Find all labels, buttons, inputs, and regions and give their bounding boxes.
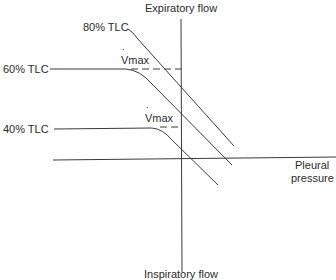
curve-60-tlc xyxy=(50,69,232,165)
flow-axis xyxy=(181,19,182,272)
pleural-pressure-axis xyxy=(53,157,336,160)
vmax-label-60: Vmax xyxy=(121,54,149,66)
pleural-label-line1: Pleural xyxy=(295,159,329,171)
pleural-label-line2: pressure xyxy=(291,172,334,184)
expiratory-flow-label: Expiratory flow xyxy=(145,2,217,14)
label-40-tlc: 40% TLC xyxy=(3,123,49,135)
vmax-label-40: Vmax xyxy=(145,112,173,124)
curve-40-tlc xyxy=(54,128,218,185)
vmax-text-60: Vmax xyxy=(121,54,149,66)
label-60-tlc: 60% TLC xyxy=(3,63,49,75)
label-80-tlc: 80% TLC xyxy=(83,21,129,33)
inspiratory-flow-label: Inspiratory flow xyxy=(144,268,218,280)
vmax-text-40: Vmax xyxy=(145,112,173,124)
